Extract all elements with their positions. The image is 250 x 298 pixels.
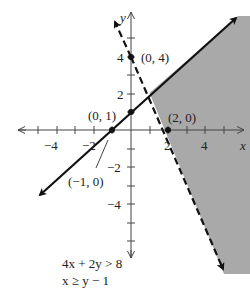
tick-label: −2 xyxy=(107,160,121,175)
point-neg1-0 xyxy=(109,127,115,133)
point-0-1 xyxy=(128,109,134,115)
point-label-0-1: (0, 1) xyxy=(88,108,116,123)
tick-label: −2 xyxy=(82,138,96,153)
tick-label: 4 xyxy=(117,50,124,65)
point-0-4 xyxy=(128,54,134,60)
y-axis-label: y xyxy=(118,10,126,25)
inequality-2: x ≥ y − 1 xyxy=(62,273,109,289)
tick-label: 2 xyxy=(164,138,171,153)
point-label-2-0: (2, 0) xyxy=(168,110,196,125)
inequality-1: 4x + 2y > 8 xyxy=(62,256,122,272)
tick-label: 2 xyxy=(117,87,124,102)
point-label-0-4: (0, 4) xyxy=(141,50,169,65)
tick-label: −4 xyxy=(107,197,121,212)
point-2-0 xyxy=(165,127,171,133)
inequality-graph: y x −4 −2 2 4 4 2 −2 −4 (0, 4) (0, 1) (2… xyxy=(0,0,250,298)
tick-label: 4 xyxy=(201,138,208,153)
x-axis-label: x xyxy=(239,138,246,153)
tick-label: −4 xyxy=(44,138,58,153)
point-label-neg1-0: (−1, 0) xyxy=(68,174,104,189)
